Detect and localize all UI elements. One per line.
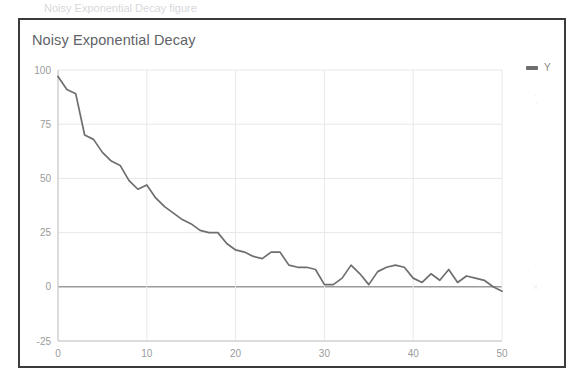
svg-text:0: 0 (55, 348, 61, 359)
svg-text:20: 20 (230, 348, 242, 359)
svg-text:-25: -25 (37, 336, 52, 347)
svg-text:10: 10 (141, 348, 153, 359)
svg-text:0: 0 (45, 281, 51, 292)
svg-text:100: 100 (34, 65, 51, 76)
line-chart-plot: -25025507510001020304050 (20, 20, 564, 366)
top-cutoff-text: Noisy Exponential Decay figure (0, 0, 584, 16)
svg-text:50: 50 (496, 348, 508, 359)
artifact-speck: · (534, 260, 537, 270)
artifact-speck: · (535, 98, 538, 108)
svg-text:25: 25 (40, 227, 52, 238)
chart-legend[interactable]: Y (526, 62, 551, 73)
legend-item-label: Y (544, 62, 551, 73)
svg-text:40: 40 (408, 348, 420, 359)
svg-text:30: 30 (319, 348, 331, 359)
svg-text:75: 75 (40, 119, 52, 130)
legend-line-dash-icon (526, 66, 538, 70)
chart-frame: Noisy Exponential Decay -250255075100010… (18, 18, 566, 368)
svg-text:50: 50 (40, 173, 52, 184)
artifact-speck: × (533, 282, 538, 292)
